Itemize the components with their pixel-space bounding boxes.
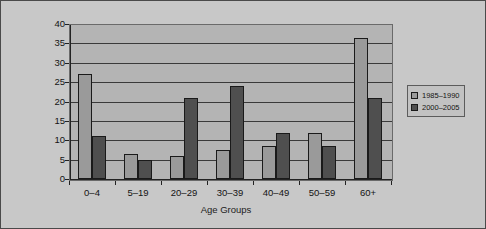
x-axis-tick-mark <box>69 181 70 185</box>
bar <box>216 150 230 179</box>
y-axis-tick-label: 15 <box>39 115 65 126</box>
bar-group <box>207 24 253 179</box>
x-axis-tick-mark <box>391 181 392 185</box>
bar <box>230 86 244 179</box>
legend-label: 1985–1990 <box>422 91 460 100</box>
bar <box>78 74 92 179</box>
legend-item[interactable]: 2000–2005 <box>411 101 460 113</box>
bar <box>276 133 290 180</box>
y-axis-tick-label: 20 <box>39 96 65 107</box>
x-axis-tick-mark <box>253 181 254 185</box>
chart-legend: 1985–19902000–2005 <box>407 85 465 117</box>
bar-group <box>345 24 391 179</box>
bar-group <box>299 24 345 179</box>
bar-group <box>115 24 161 179</box>
x-axis-tick-mark <box>299 181 300 185</box>
bar <box>368 98 382 179</box>
bar <box>92 136 106 179</box>
y-axis-tick-label: 25 <box>39 76 65 87</box>
bar-group <box>161 24 207 179</box>
y-axis-tick-label: 0 <box>39 173 65 184</box>
legend-swatch-icon <box>411 92 418 99</box>
bar <box>184 98 198 179</box>
y-axis-tick-label: 30 <box>39 57 65 68</box>
x-axis-tick-mark <box>115 181 116 185</box>
y-axis-tick-label: 5 <box>39 154 65 165</box>
bar <box>308 133 322 180</box>
bar <box>354 38 368 179</box>
x-axis-tick-mark <box>345 181 346 185</box>
bar <box>322 146 336 179</box>
x-axis-tick-label: 60+ <box>340 187 396 198</box>
x-axis-title: Age Groups <box>56 204 396 215</box>
bar <box>124 154 138 179</box>
y-axis-tick-label: 40 <box>39 18 65 29</box>
y-axis-tick-labels: 0510152025303540 <box>37 24 65 179</box>
legend-item[interactable]: 1985–1990 <box>411 89 460 101</box>
legend-swatch-icon <box>411 104 418 111</box>
y-axis-tick-label: 10 <box>39 134 65 145</box>
chart-figure: Percentage of Total Deaths 0510152025303… <box>0 0 486 229</box>
y-axis-tick-label: 35 <box>39 37 65 48</box>
bar-group <box>253 24 299 179</box>
bar-group <box>69 24 115 179</box>
legend-label: 2000–2005 <box>422 103 460 112</box>
bar <box>138 160 152 179</box>
bar <box>262 146 276 179</box>
x-axis-tick-mark <box>161 181 162 185</box>
x-axis-tick-mark <box>207 181 208 185</box>
y-axis-tick-mark <box>65 179 69 180</box>
bar <box>170 156 184 179</box>
